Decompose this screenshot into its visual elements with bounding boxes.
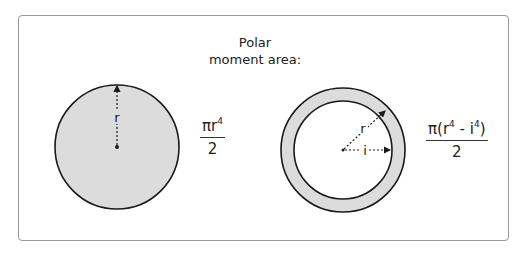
solid-formula: πr4 2 bbox=[200, 117, 225, 159]
outer-radius-label: r bbox=[360, 121, 366, 136]
center-point bbox=[115, 145, 119, 149]
solid-formula-numerator: πr4 bbox=[200, 117, 225, 138]
solid-circle: r bbox=[55, 85, 179, 209]
radius-label: r bbox=[114, 110, 120, 125]
solid-formula-denominator: 2 bbox=[200, 138, 225, 159]
inner-radius-label: i bbox=[363, 143, 367, 158]
hollow-formula-numerator: π(r4 - i4) bbox=[426, 120, 488, 141]
hollow-formula: π(r4 - i4) 2 bbox=[426, 120, 488, 162]
hollow-formula-denominator: 2 bbox=[426, 141, 488, 162]
hollow-circle: r i bbox=[281, 88, 405, 212]
